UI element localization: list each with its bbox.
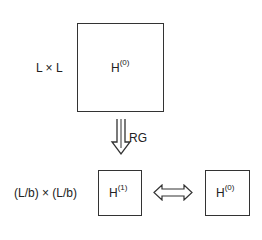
hamiltonian-h0-top: H(0) [111, 60, 129, 75]
lattice-size-label-top: L × L [36, 61, 63, 75]
rg-label: RG [129, 131, 147, 145]
hamiltonian-h0-bottom: H(0) [216, 185, 234, 200]
hamiltonian-h1: H(1) [109, 185, 127, 200]
large-lattice-box: H(0) [77, 23, 164, 112]
reference-lattice-box: H(0) [205, 170, 250, 216]
lattice-size-label-bottom: (L/b) × (L/b) [14, 186, 77, 200]
coarse-lattice-box: H(1) [98, 170, 142, 216]
equivalence-double-arrow-icon [153, 184, 193, 201]
